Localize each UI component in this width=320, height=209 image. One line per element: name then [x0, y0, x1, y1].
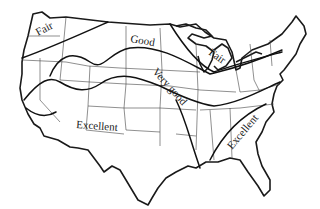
map-canvas: Fair Good Fair Very good Excellent Excel… — [0, 0, 320, 209]
label-excellent-southwest: Excellent — [76, 118, 118, 133]
us-quality-zone-map: Fair Good Fair Very good Excellent Excel… — [0, 0, 320, 209]
great-lakes — [176, 24, 262, 72]
label-fair-northwest: Fair — [33, 19, 55, 38]
contour-west-loop — [26, 108, 56, 115]
label-good-north: Good — [130, 32, 157, 48]
label-very-good: Very good — [151, 65, 191, 107]
contour-verygood-excellent — [24, 76, 280, 106]
